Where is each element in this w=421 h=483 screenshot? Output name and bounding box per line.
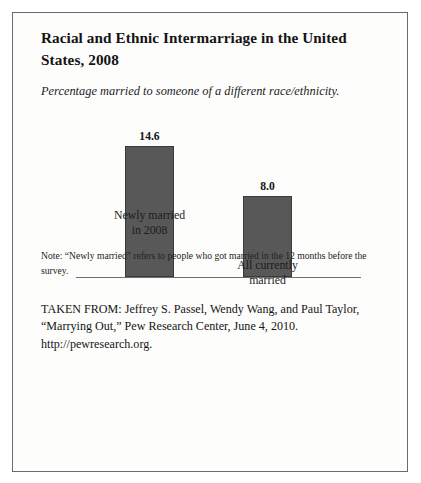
plot-area: 14.6 Newly married in 2008 8.0 All curre…: [65, 109, 355, 331]
bar-category-label: Newly married in 2008: [95, 208, 204, 238]
bar-category-line: in 2008: [95, 223, 204, 238]
figure-subtitle: Percentage married to someone of a diffe…: [41, 83, 386, 100]
bar-chart: 14.6 Newly married in 2008 8.0 All curre…: [13, 109, 407, 331]
figure-source: TAKEN FROM: Jeffrey S. Passel, Wendy Wan…: [41, 301, 389, 353]
bar-value-label: 14.6: [111, 130, 188, 143]
bar-value-label: 8.0: [229, 180, 306, 193]
figure-frame: Racial and Ethnic Intermarriage in the U…: [12, 12, 408, 472]
figure-title: Racial and Ethnic Intermarriage in the U…: [41, 27, 371, 70]
figure-note: Note: “Newly married” refers to people w…: [41, 249, 381, 279]
bar-category-line: Newly married: [95, 208, 204, 223]
